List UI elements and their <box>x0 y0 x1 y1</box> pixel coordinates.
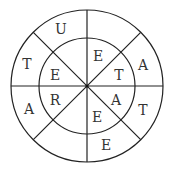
letter-s1-inner: T <box>114 67 124 83</box>
letter-s7-outer: U <box>55 21 67 37</box>
center-dot <box>85 84 88 87</box>
letter-s5-outer: A <box>23 101 35 117</box>
letter-s6-inner: E <box>50 67 60 83</box>
letter-s1-outer: A <box>137 57 149 73</box>
letter-s0-inner: E <box>93 48 103 64</box>
letter-s2-inner: A <box>110 92 122 108</box>
letter-s2-outer: T <box>138 102 148 118</box>
letter-s3-inner: E <box>92 109 102 125</box>
letter-wheel: U E T A E T R A A T E E <box>0 0 169 176</box>
letter-s6-outer: T <box>22 56 32 72</box>
letter-s5-inner: R <box>50 92 61 108</box>
letter-s3-outer: E <box>101 137 111 153</box>
